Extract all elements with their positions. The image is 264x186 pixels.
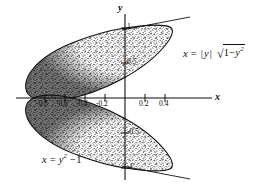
x-tick-label-neg-0-8: -0.8 xyxy=(36,99,48,108)
eq-right-radical: √1−y2 xyxy=(216,45,245,60)
eq-bottom-const: 1 xyxy=(76,154,81,165)
math-figure: -0.8 -0.6 -0.4 -0.2 0.2 0.4 1 0.5 -0.5 -… xyxy=(0,0,264,186)
curve-label-right: x = |y| √1−y2 xyxy=(183,45,245,60)
x-tick-label-neg-0-4: -0.4 xyxy=(76,99,88,108)
eq-right-lhs: x xyxy=(183,48,188,59)
y-tick-label-1: 1 xyxy=(127,22,131,31)
x-tick-label-neg-0-6: -0.6 xyxy=(56,99,68,108)
y-tick-label-neg-1: -1 xyxy=(127,162,133,171)
y-axis-label: y xyxy=(118,2,122,13)
x-tick-label-0-4: 0.4 xyxy=(159,99,168,108)
eq-bottom-equals: = xyxy=(50,154,56,165)
eq-right-radicand: 1−y2 xyxy=(223,44,245,58)
shaded-region-upper xyxy=(26,25,173,101)
eq-right-abs-close: | xyxy=(209,48,213,59)
curve-label-bottom: x = y2 −1 xyxy=(42,152,82,165)
eq-bottom-lhs: x xyxy=(42,154,47,165)
x-tick-label-neg-0-2: -0.2 xyxy=(96,99,108,108)
y-tick-label-neg-0-5: -0.5 xyxy=(127,127,139,136)
eq-right-equals: = xyxy=(191,48,197,59)
x-tick-label-0-2: 0.2 xyxy=(139,99,148,108)
y-tick-label-0-5: 0.5 xyxy=(127,57,136,66)
x-axis-label: x xyxy=(215,91,220,102)
eq-bottom-exp: 2 xyxy=(64,152,68,160)
eq-right-radicand-exp: 2 xyxy=(240,45,244,53)
plot-canvas xyxy=(0,0,264,186)
